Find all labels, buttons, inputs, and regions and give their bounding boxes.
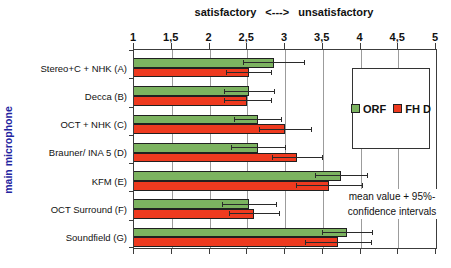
ci-cap-right [372,230,373,235]
y-axis-tick [129,107,133,108]
category-label: OCT Surround (F) [0,203,127,216]
ci-cap-left [229,211,230,216]
ci-whisker [305,242,371,243]
ci-cap-right [274,89,275,94]
ci-cap-right [304,60,305,65]
ci-whisker [322,232,372,233]
x-tick-mark-bottom [435,248,436,254]
x-tick-mark-bottom [246,248,247,254]
ci-cap-right [271,98,272,103]
category-label: Decca (B) [0,90,127,103]
ci-cap-right [362,183,363,188]
x-tick-label: 1,5 [156,31,186,43]
gridline [323,50,324,248]
ci-cap-left [226,70,227,75]
y-axis-tick [129,163,133,164]
ci-cap-right [285,145,286,150]
x-tick-label: 3,5 [307,31,337,43]
y-axis-tick [129,78,133,79]
y-axis-tick [129,50,133,51]
bar-orf [134,171,341,181]
ci-cap-right [371,240,372,245]
ci-cap-right [271,70,272,75]
orf-color-swatch [351,104,360,113]
x-tick-mark-bottom [360,248,361,254]
ci-whisker [243,62,303,63]
x-tick-mark-bottom [133,248,134,254]
ci-cap-right [281,117,282,122]
ci-cap-left [222,202,223,207]
ci-annotation: mean value + 95%- confidence intervals [333,189,451,219]
ci-cap-left [305,240,306,245]
category-label: Soundfield (G) [0,231,127,244]
x-tick-label: 1 [118,31,148,43]
x-tick-mark-bottom [397,248,398,254]
x-tick-mark-bottom [209,248,210,254]
ci-whisker [272,157,322,158]
ci-whisker [224,91,274,92]
ci-cap-left [259,127,260,132]
x-tick-label: 3 [269,31,299,43]
x-tick-mark-bottom [284,248,285,254]
ci-cap-right [311,127,312,132]
x-tick-mark-top [284,43,285,49]
ci-cap-left [224,98,225,103]
ci-cap-left [322,230,323,235]
ci-whisker [231,147,285,148]
ci-whisker [224,100,271,101]
ci-whisker [234,119,281,120]
title-arrow-icon: <---> [265,6,289,18]
bar-orf [134,228,347,238]
fhd-color-swatch [393,104,402,113]
y-axis-tick [129,191,133,192]
ci-cap-right [367,173,368,178]
category-label: Brauner/ INA 5 (D) [0,146,127,159]
legend-label-orf: ORF [363,103,386,115]
title-unsatisfactory: unsatisfactory [298,6,373,18]
x-tick-mark-top [322,43,323,49]
legend-item-orf: ORF [351,103,386,115]
ci-cap-left [272,155,273,160]
ci-cap-left [231,145,232,150]
x-tick-mark-top [246,43,247,49]
x-tick-mark-top [171,43,172,49]
ci-whisker [229,213,279,214]
x-tick-label: 4 [345,31,375,43]
category-label: OCT + NHK (C) [0,118,127,131]
y-axis-tick [129,220,133,221]
ci-cap-right [276,202,277,207]
ci-cap-left [234,117,235,122]
title-satisfactory: satisfactory [195,6,257,18]
x-tick-label: 5 [420,31,450,43]
y-axis-tick [129,135,133,136]
ci-annotation-line2: confidence intervals [333,204,451,219]
legend: ORF FH D [352,68,430,149]
legend-item-fhd: FH D [393,103,431,115]
x-tick-mark-top [133,43,134,49]
y-axis-tick [129,247,133,248]
x-tick-label: 2 [194,31,224,43]
legend-label-fhd: FH D [405,103,431,115]
x-tick-mark-bottom [322,248,323,254]
chart-title: satisfactory<--->unsatisfactory [133,6,435,18]
x-tick-mark-top [435,43,436,49]
ci-whisker [222,204,276,205]
x-tick-label: 4,5 [382,31,412,43]
x-tick-mark-top [397,43,398,49]
x-tick-mark-bottom [171,248,172,254]
x-tick-label: 2,5 [231,31,261,43]
ci-whisker [315,175,366,176]
plot-area: ORF FH D [133,49,437,249]
ci-cap-right [322,155,323,160]
ci-annotation-line1: mean value + 95%- [333,189,451,204]
x-tick-mark-top [209,43,210,49]
x-tick-mark-top [360,43,361,49]
category-label: KFM (E) [0,175,127,188]
ci-cap-left [296,183,297,188]
ci-whisker [226,72,271,73]
ci-cap-left [315,173,316,178]
ci-cap-left [243,60,244,65]
ci-cap-left [224,89,225,94]
microphone-evaluation-chart: satisfactory<--->unsatisfactory main mic… [0,0,451,268]
category-label: Stereo+C + NHK (A) [0,62,127,75]
